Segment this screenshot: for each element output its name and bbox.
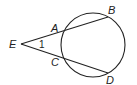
angle-1-label: 1: [39, 39, 45, 50]
label-A: A: [50, 22, 58, 34]
label-D: D: [106, 74, 114, 85]
secant-diagram: E A B C D 1: [0, 0, 137, 85]
label-E: E: [9, 38, 17, 50]
secant-ED: [21, 44, 108, 73]
label-C: C: [51, 56, 59, 68]
circle: [61, 13, 125, 77]
secant-EB: [21, 17, 108, 44]
label-B: B: [108, 4, 115, 16]
